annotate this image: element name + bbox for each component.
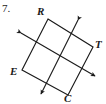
arrow-line-horizontal-midsegment: [21, 33, 95, 76]
geometry-figure-container: 7. R T E C: [0, 0, 106, 104]
midsegment-arrow-lines: [21, 20, 95, 94]
vertex-label-c: C: [64, 93, 71, 104]
square-diagram-svg: [0, 0, 106, 104]
vertex-label-r: R: [37, 6, 44, 17]
vertex-label-e: E: [10, 66, 17, 77]
vertex-label-t: T: [95, 39, 102, 50]
arrow-line-vertical-midsegment: [41, 20, 78, 94]
square-rtce-outline: [22, 19, 93, 95]
